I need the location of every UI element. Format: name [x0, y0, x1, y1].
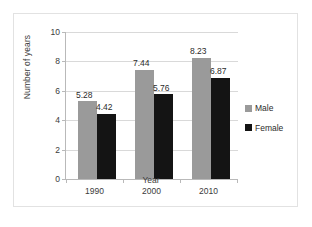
- y-tick-label-2: 2: [40, 145, 60, 154]
- y-tickmark-6: [62, 91, 66, 92]
- gridline-10: [66, 32, 238, 33]
- bar-female-1990: [97, 114, 116, 179]
- x-category-label-2000: 2000: [142, 186, 161, 196]
- bar-label-female-2000: 5.76: [153, 84, 170, 93]
- gridline-8: [66, 61, 238, 62]
- chart-legend: Male Female: [245, 104, 297, 143]
- x-axis-title: Year: [65, 175, 237, 185]
- bar-chart: Number of years 0 2 4 6 8 10 5.28 4.42: [0, 0, 312, 227]
- bar-male-2000: [135, 70, 154, 179]
- y-tick-label-4: 4: [40, 116, 60, 125]
- x-category-label-1990: 1990: [85, 186, 104, 196]
- y-tickmark-10: [62, 32, 66, 33]
- legend-item-female: Female: [245, 124, 297, 133]
- y-tick-label-10: 10: [40, 28, 60, 37]
- bar-male-2010: [192, 58, 211, 179]
- legend-item-male: Male: [245, 104, 297, 113]
- bar-female-2010: [211, 78, 230, 179]
- y-tick-label-0: 0: [40, 175, 60, 184]
- y-tickmark-2: [62, 150, 66, 151]
- bar-label-female-2010: 6.87: [210, 67, 227, 76]
- bar-label-male-2000: 7.44: [133, 59, 150, 68]
- x-tickmark-3: [237, 179, 238, 183]
- y-axis-tick-labels: 0 2 4 6 8 10: [38, 0, 60, 227]
- y-tickmark-8: [62, 61, 66, 62]
- legend-swatch-male-icon: [245, 105, 252, 112]
- bar-label-male-1990: 5.28: [76, 91, 93, 100]
- x-category-label-2010: 2010: [199, 186, 218, 196]
- legend-label-male: Male: [255, 104, 273, 113]
- bar-male-1990: [78, 101, 97, 179]
- plot-area: 5.28 4.42 7.44 5.76 8.23 6.87 1990 2000 …: [65, 32, 238, 180]
- legend-label-female: Female: [255, 124, 283, 133]
- bar-label-female-1990: 4.42: [96, 103, 113, 112]
- y-tickmark-4: [62, 120, 66, 121]
- bar-label-male-2010: 8.23: [190, 47, 207, 56]
- y-axis-title: Number of years: [22, 22, 32, 112]
- legend-swatch-female-icon: [245, 124, 252, 131]
- bar-female-2000: [154, 94, 173, 179]
- y-tick-label-6: 6: [40, 87, 60, 96]
- y-tick-label-8: 8: [40, 57, 60, 66]
